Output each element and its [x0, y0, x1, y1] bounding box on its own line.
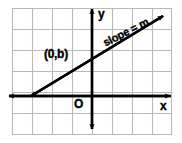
x-axis-label: x: [160, 100, 167, 112]
coordinate-plane-figure: (0,b) slope = m O y x: [0, 0, 182, 143]
y-intercept-label: (0,b): [44, 48, 68, 60]
y-axis-label: y: [98, 8, 105, 20]
origin-label: O: [74, 98, 83, 110]
graph-canvas: [0, 0, 182, 143]
